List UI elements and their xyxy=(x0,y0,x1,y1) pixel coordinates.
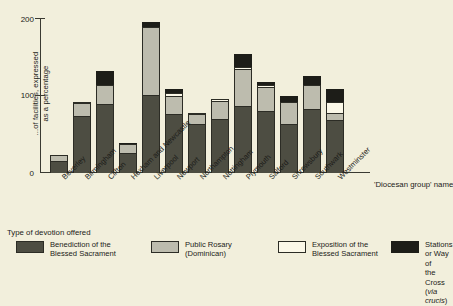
legend-swatch-sta xyxy=(391,241,419,253)
legend-items: Benediction of the Blessed SacramentPubl… xyxy=(6,240,436,262)
legend-swatch-exp xyxy=(278,241,306,253)
segment-ros xyxy=(73,103,91,115)
segment-sta xyxy=(326,89,344,102)
legend-swatch-ros xyxy=(151,241,179,253)
legend-title: Type of devotion offered xyxy=(7,228,436,237)
segment-sta xyxy=(303,76,321,85)
legend-label-sta: Stations or Way ofthe Cross (via crucis) xyxy=(425,240,452,306)
segment-ros xyxy=(257,87,275,111)
x-axis-title: 'Diocesan group' name xyxy=(374,180,453,189)
legend-label-ben: Benediction of the Blessed Sacrament xyxy=(50,240,116,259)
legend-item-exp[interactable]: Exposition of the Blessed Sacrament xyxy=(278,240,378,259)
segment-sta xyxy=(234,54,252,66)
segment-ros xyxy=(96,85,114,104)
segment-ros xyxy=(326,113,344,121)
legend-swatch-ben xyxy=(16,241,44,253)
legend-label-ros: Public Rosary (Dominican) xyxy=(185,240,232,259)
legend: Type of devotion offered Benediction of … xyxy=(6,228,436,262)
x-axis-category-labels: BeverleyBirminghamCliftonHexham and Newc… xyxy=(40,175,370,233)
segment-ros xyxy=(303,85,321,108)
legend-item-ben[interactable]: Benediction of the Blessed Sacrament xyxy=(16,240,116,259)
y-tick-label-100: 100 xyxy=(21,91,34,100)
legend-item-sta[interactable]: Stations or Way ofthe Cross (via crucis) xyxy=(391,240,452,306)
segment-ros xyxy=(280,102,298,124)
y-tick-label-200: 200 xyxy=(21,15,34,24)
segment-ros xyxy=(234,69,252,106)
segment-ros xyxy=(165,96,183,115)
segment-sta xyxy=(96,71,114,85)
legend-label-exp: Exposition of the Blessed Sacrament xyxy=(312,240,378,259)
y-tick-label-0: 0 xyxy=(30,169,34,178)
segment-ros xyxy=(142,27,160,95)
segment-ros xyxy=(119,144,137,153)
segment-ros xyxy=(211,101,229,119)
legend-item-ros[interactable]: Public Rosary (Dominican) xyxy=(151,240,232,259)
segment-exp xyxy=(326,102,344,113)
